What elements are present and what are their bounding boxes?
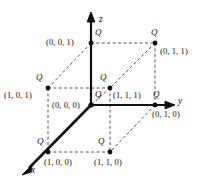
charge-label-y: Q (153, 90, 160, 99)
coord-label-x: (1, 0, 0) (44, 158, 72, 167)
charge-label-x: Q (37, 137, 44, 146)
vertex-dot-xy (108, 150, 113, 155)
charge-label-origin: Q (95, 90, 102, 99)
cube-charge-diagram: z y x Q Q Q Q Q Q Q Q (0, 0, 1) (0, 1, 1… (0, 0, 199, 180)
coord-label-origin: (0, 0, 0) (52, 101, 80, 110)
vertex-dot-xyz (108, 86, 113, 91)
vertex-dot-yz (153, 41, 158, 46)
y-axis-arrowhead (165, 101, 175, 109)
coord-label-y: (0, 1, 0) (152, 110, 180, 119)
edge-y-xy (110, 105, 155, 152)
vertex-dot-x (46, 150, 51, 155)
coord-label-xy: (1, 1, 0) (94, 158, 122, 167)
z-axis-arrowhead (87, 12, 95, 22)
charge-label-z: Q (95, 28, 102, 37)
edge-yz-xyz (110, 43, 155, 88)
edge-z-xz (48, 43, 91, 88)
charge-label-yz: Q (151, 28, 158, 37)
vertex-dot-xz (46, 86, 51, 91)
vertex-dot-z (89, 41, 94, 46)
charge-label-xy: Q (98, 137, 105, 146)
coord-label-xyz: (1, 1, 1) (113, 91, 141, 100)
z-axis-label: z (99, 15, 103, 25)
vertex-dot-origin (88, 102, 93, 107)
charge-label-xz: Q (36, 73, 43, 82)
coord-label-yz: (0, 1, 1) (160, 47, 188, 56)
vertex-dot-y (153, 103, 158, 108)
coord-label-xz: (1, 0, 1) (4, 91, 32, 100)
coord-label-z: (0, 0, 1) (46, 38, 74, 47)
charge-label-xyz: Q (100, 73, 107, 82)
x-axis-label: x (31, 166, 35, 176)
y-axis-label: y (178, 97, 182, 107)
